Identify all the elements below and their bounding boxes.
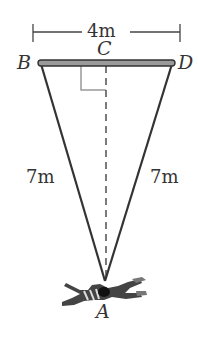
label-point-C: C — [97, 37, 112, 59]
label-left-side: 7m — [26, 166, 55, 187]
top-bar-BD — [38, 60, 175, 66]
right-angle-marker — [81, 65, 106, 90]
label-point-A: A — [96, 300, 110, 322]
parachute-diagram: 4m B C D 7m 7m A — [0, 0, 198, 353]
label-right-side: 7m — [150, 166, 179, 187]
label-point-D: D — [178, 51, 193, 73]
label-point-B: B — [17, 51, 31, 73]
